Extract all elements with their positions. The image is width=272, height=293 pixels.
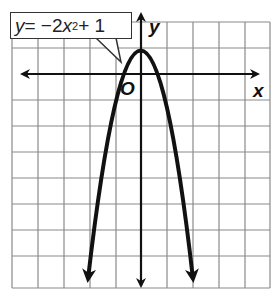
origin-label: O — [120, 78, 135, 100]
eq-y: y — [15, 15, 25, 37]
callout-pointer — [96, 38, 121, 62]
coordinate-graph — [0, 0, 272, 293]
eq-coef: = −2 — [25, 15, 63, 37]
equation-label: y = −2x2 + 1 — [10, 12, 132, 39]
eq-rest: + 1 — [78, 15, 105, 37]
axes — [22, 14, 258, 286]
y-axis-label: y — [149, 16, 160, 38]
eq-x: x — [63, 15, 73, 37]
x-axis-label: x — [253, 80, 264, 102]
